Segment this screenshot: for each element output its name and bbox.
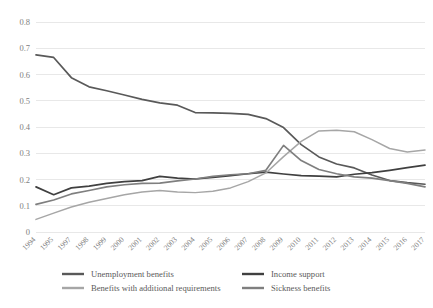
y-axis-tick-labels: 00.10.20.30.40.50.60.70.8 xyxy=(19,17,30,237)
x-tick-label: 2010 xyxy=(286,235,303,252)
x-tick-label: 2004 xyxy=(179,235,196,252)
x-tick-label: 2011 xyxy=(303,235,320,252)
legend-label: Benefits with additional requirements xyxy=(91,283,221,293)
y-tick-label: 0.7 xyxy=(19,43,30,53)
x-tick-label: 1994 xyxy=(20,235,37,252)
y-tick-label: 0.3 xyxy=(19,148,30,158)
legend-item[interactable]: Benefits with additional requirements xyxy=(62,283,221,293)
x-tick-label: 2014 xyxy=(356,235,373,252)
legend-label: Unemployment benefits xyxy=(91,269,174,279)
x-tick-label: 2016 xyxy=(392,235,409,252)
x-tick-label: 2003 xyxy=(162,235,179,252)
chart-legend: Unemployment benefitsIncome supportBenef… xyxy=(62,269,331,293)
y-tick-label: 0.5 xyxy=(19,96,30,106)
x-tick-label: 1998 xyxy=(73,235,90,252)
x-tick-label: 2009 xyxy=(268,235,285,252)
x-tick-label: 2002 xyxy=(144,235,161,252)
y-tick-label: 0.2 xyxy=(19,175,30,185)
x-tick-label: 1999 xyxy=(91,235,108,252)
x-tick-label: 2005 xyxy=(197,235,214,252)
legend-label: Sickness benefits xyxy=(271,283,331,293)
y-tick-label: 0.8 xyxy=(19,17,30,27)
x-tick-label: 1995 xyxy=(38,235,55,252)
series-group xyxy=(36,55,425,220)
x-tick-label: 1997 xyxy=(56,235,73,252)
legend-item[interactable]: Sickness benefits xyxy=(242,283,331,293)
chart-canvas: 00.10.20.30.40.50.60.70.8 19941995199719… xyxy=(0,0,433,308)
x-tick-label: 2000 xyxy=(109,235,126,252)
legend-item[interactable]: Income support xyxy=(242,269,325,279)
line-chart: 00.10.20.30.40.50.60.70.8 19941995199719… xyxy=(0,0,433,308)
x-tick-label: 2001 xyxy=(126,235,143,252)
y-tick-label: 0.1 xyxy=(19,201,30,211)
x-axis-tick-labels: 1994199519971998199920002001200220032004… xyxy=(20,235,426,252)
x-tick-label: 2008 xyxy=(250,235,267,252)
x-tick-label: 2006 xyxy=(215,235,232,252)
legend-label: Income support xyxy=(271,269,325,279)
y-tick-label: 0.4 xyxy=(19,122,30,132)
y-tick-label: 0.6 xyxy=(19,70,30,80)
x-tick-label: 2017 xyxy=(409,235,426,252)
series-line xyxy=(36,145,425,204)
x-tick-label: 2013 xyxy=(339,235,356,252)
x-tick-label: 2007 xyxy=(232,235,249,252)
x-tick-label: 2015 xyxy=(374,235,391,252)
legend-item[interactable]: Unemployment benefits xyxy=(62,269,174,279)
x-tick-label: 2012 xyxy=(321,235,338,252)
